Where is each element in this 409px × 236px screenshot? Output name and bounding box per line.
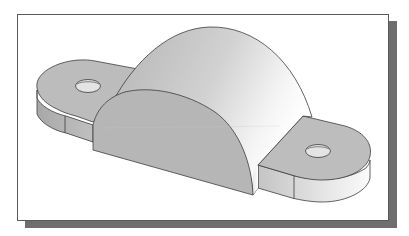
bracket-part-illustration	[0, 0, 409, 236]
